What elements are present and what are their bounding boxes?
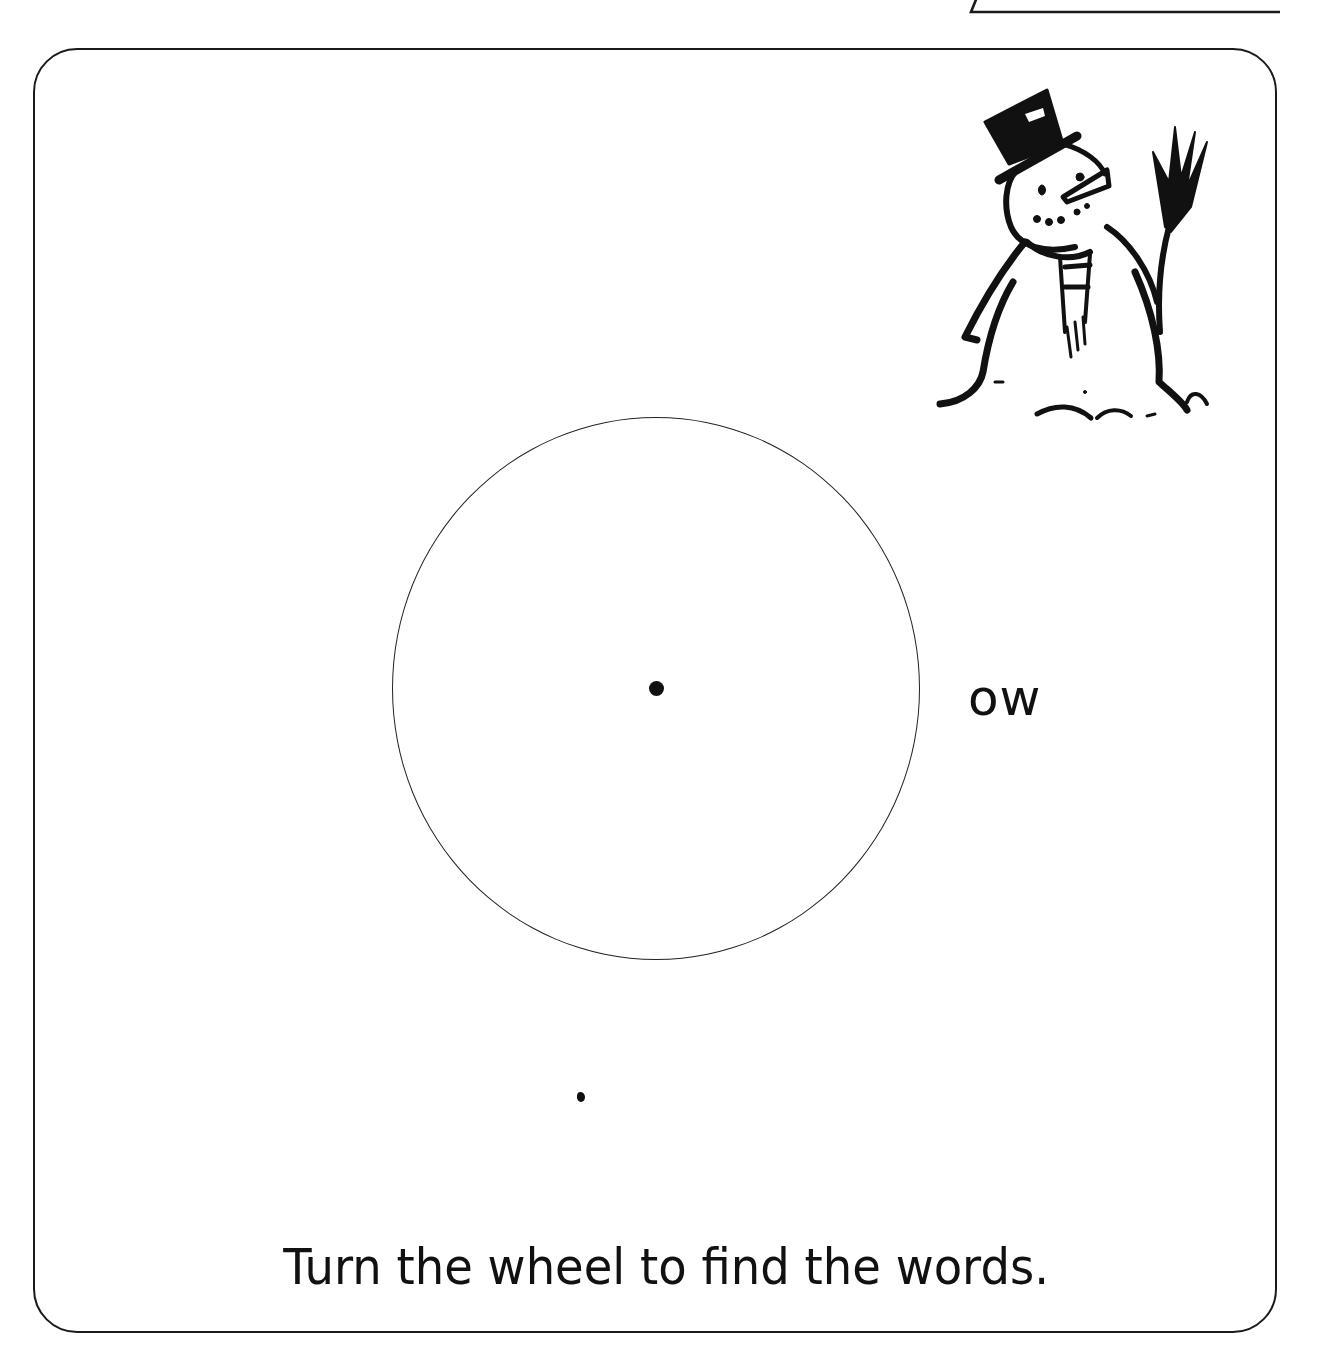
header-tab-outline-icon [968, 0, 1288, 14]
word-suffix: ow [968, 668, 1041, 728]
snowman-icon [925, 82, 1215, 422]
snowman-illustration [925, 82, 1215, 422]
instruction-text: Turn the wheel to find the words. [46, 1232, 1276, 1302]
wheel-pivot-dot [649, 681, 664, 696]
stray-ink-mark [577, 1092, 585, 1102]
worksheet-header-tab [968, 0, 1288, 14]
